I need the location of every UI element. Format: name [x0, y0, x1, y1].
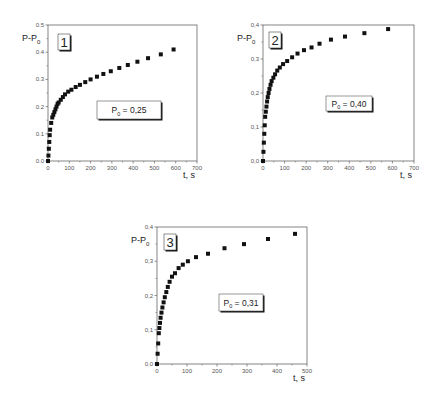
data-point [101, 72, 105, 76]
y-tick-label: 0.3 [36, 76, 45, 82]
panel-number-badge: 3 [164, 234, 178, 252]
x-tick-label: 0 [46, 165, 50, 171]
svg-text:P0 = 0,31: P0 = 0,31 [224, 298, 259, 310]
x-tick-label: 0 [261, 165, 265, 171]
y-tick-label: 0.2 [36, 104, 45, 110]
data-point [160, 305, 164, 309]
data-point [109, 69, 113, 73]
x-axis-title: t, s [293, 373, 306, 383]
data-point [157, 326, 161, 330]
x-tick-label: 300 [107, 165, 118, 171]
figure-canvas: 01002003004005006007000.00.10.20.30.40.5… [0, 0, 434, 397]
data-point [293, 232, 297, 236]
data-point [266, 95, 270, 99]
data-point [318, 42, 322, 46]
data-point [329, 38, 333, 42]
x-tick-label: 100 [280, 165, 291, 171]
x-tick-label: 300 [323, 165, 334, 171]
data-point [267, 87, 271, 91]
y-tick-label: 0.0 [36, 158, 45, 164]
data-point [46, 159, 50, 163]
panel-number-badge: 1 [58, 34, 72, 52]
y-tick-label: 0,3 [251, 56, 260, 62]
data-point [296, 52, 300, 56]
y-tick-label: 0,1 [145, 327, 154, 333]
data-point [177, 266, 181, 270]
y-axis-title: P-P0 [22, 33, 41, 45]
data-point [83, 80, 87, 84]
x-tick-label: 500 [366, 165, 377, 171]
data-point [173, 271, 177, 275]
y-tick-label: 0,0 [251, 158, 260, 164]
x-tick-label: 500 [149, 165, 160, 171]
data-point [181, 263, 185, 267]
data-point [89, 77, 93, 81]
data-point [343, 35, 347, 39]
data-point [48, 128, 52, 132]
data-point [47, 147, 51, 151]
p0-annotation-box: P0 = 0,31 [219, 294, 265, 313]
p0-annotation-box: P0 = 0,40 [326, 96, 374, 113]
x-tick-label: 200 [86, 165, 97, 171]
data-point [155, 362, 159, 366]
data-point [159, 52, 163, 56]
data-point [69, 88, 73, 92]
svg-text:P0 = 0,25: P0 = 0,25 [112, 105, 147, 117]
x-tick-label: 600 [171, 165, 182, 171]
x-tick-label: 200 [212, 368, 223, 374]
data-point [273, 72, 277, 76]
p0-annotation-box: P0 = 0,25 [97, 101, 163, 121]
data-point [146, 56, 150, 60]
x-tick-label: 100 [64, 165, 75, 171]
data-point [163, 295, 167, 299]
data-point [157, 331, 161, 335]
svg-text:2: 2 [271, 33, 278, 48]
data-point [166, 285, 170, 289]
data-point [261, 150, 265, 154]
x-tick-label: 300 [242, 368, 253, 374]
y-axis-title: P-P0 [131, 235, 150, 247]
chart-panel-3: 01002003004005000,00,10,20,30,4t, sP-P03… [131, 224, 313, 383]
data-point [290, 55, 294, 59]
x-tick-label: 0 [155, 368, 159, 374]
data-point [263, 123, 267, 127]
x-tick-label: 400 [344, 165, 355, 171]
x-tick-label: 400 [128, 165, 139, 171]
data-point [281, 62, 285, 66]
data-point [265, 100, 269, 104]
data-point [262, 132, 266, 136]
panel-number-badge: 2 [269, 32, 283, 50]
data-point [156, 352, 160, 356]
x-axis-title: t, s [183, 170, 196, 180]
data-point [164, 290, 168, 294]
data-point [95, 75, 99, 79]
data-point [206, 252, 210, 256]
y-tick-label: 0.5 [36, 22, 45, 28]
data-point [194, 255, 198, 259]
data-point [49, 121, 53, 125]
x-tick-label: 100 [182, 368, 193, 374]
y-tick-label: 0,4 [145, 224, 154, 230]
svg-text:3: 3 [166, 235, 173, 250]
data-point [310, 45, 314, 49]
data-point [263, 115, 267, 119]
y-tick-label: 0,2 [251, 90, 260, 96]
data-point [269, 83, 273, 87]
y-tick-label: 0,2 [145, 293, 154, 299]
data-point [78, 83, 82, 87]
chart-panel-2: 01002003004005006007000,00,10,20,30,4t, … [237, 22, 420, 180]
data-point [261, 159, 265, 163]
data-point [302, 48, 306, 52]
data-point [117, 66, 121, 70]
data-point [156, 341, 160, 345]
data-point [168, 280, 172, 284]
data-point [262, 141, 266, 145]
y-tick-label: 0.4 [36, 49, 45, 55]
data-point [135, 60, 139, 64]
data-point [264, 105, 268, 109]
data-point [172, 47, 176, 51]
data-point [267, 91, 271, 95]
data-point [158, 321, 162, 325]
data-point [285, 59, 289, 63]
y-tick-label: 0,4 [251, 22, 260, 28]
